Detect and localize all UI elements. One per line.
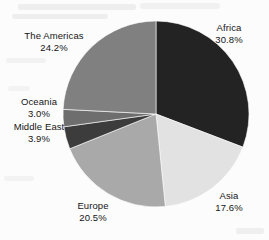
slice-label-the-americas: The Americas 24.2% bbox=[8, 30, 100, 53]
slice-label-asia-name: Asia bbox=[200, 190, 258, 202]
slice-label-africa-percent: 30.8% bbox=[198, 34, 260, 46]
slice-label-oceania: Oceania 3.0% bbox=[6, 96, 72, 119]
slice-label-the-americas-name: The Americas bbox=[8, 30, 100, 42]
pie-chart-figure: Africa 30.8% Asia 17.6% Europe 20.5% Mid… bbox=[0, 0, 269, 240]
slice-label-europe-name: Europe bbox=[62, 200, 124, 212]
slice-label-europe: Europe 20.5% bbox=[62, 200, 124, 223]
slice-label-middle-east-percent: 3.9% bbox=[2, 133, 76, 145]
slice-label-oceania-percent: 3.0% bbox=[6, 108, 72, 120]
slice-label-oceania-name: Oceania bbox=[6, 96, 72, 108]
slice-label-europe-percent: 20.5% bbox=[62, 212, 124, 224]
slice-label-the-americas-percent: 24.2% bbox=[8, 42, 100, 54]
slice-label-africa-name: Africa bbox=[198, 22, 260, 34]
slice-label-asia: Asia 17.6% bbox=[200, 190, 258, 213]
slice-label-middle-east: Middle East 3.9% bbox=[2, 121, 76, 144]
slice-label-asia-percent: 17.6% bbox=[200, 202, 258, 214]
slice-label-africa: Africa 30.8% bbox=[198, 22, 260, 45]
slice-label-middle-east-name: Middle East bbox=[2, 121, 76, 133]
